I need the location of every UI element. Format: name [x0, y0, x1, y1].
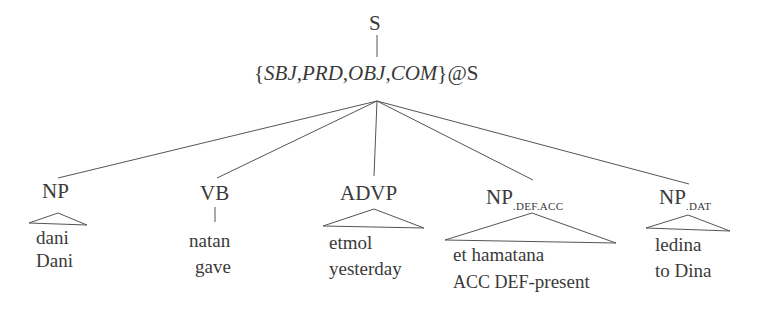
- set-open-brace: {: [254, 61, 264, 85]
- node-np: NP: [42, 180, 69, 202]
- word-etmol: etmol: [329, 232, 372, 254]
- node-np-def-acc: NP.DEF.ACC: [486, 186, 563, 217]
- node-np-def-acc-label: NP: [486, 185, 513, 209]
- edge-advp: [374, 101, 377, 176]
- triangle-np: [29, 213, 87, 225]
- at-s-suffix: @S: [447, 61, 478, 85]
- gloss-acc-def-present: ACC DEF-present: [453, 271, 590, 293]
- gloss-dani: Dani: [36, 250, 73, 272]
- node-advp: ADVP: [340, 182, 397, 204]
- word-et-hamatana: et hamatana: [453, 244, 544, 266]
- edge-np-def-acc: [377, 101, 533, 180]
- triangle-np-dat: [646, 215, 730, 231]
- word-natan: natan: [189, 230, 230, 252]
- root-node-s: S: [369, 12, 381, 34]
- syntax-tree-diagram: S {SBJ,PRD,OBJ,COM}@S NP dani Dani VB na…: [0, 0, 761, 314]
- edge-vb: [217, 101, 377, 178]
- set-close-brace: }: [437, 61, 447, 85]
- word-dani: dani: [36, 227, 69, 249]
- gloss-to-dina: to Dina: [655, 260, 711, 282]
- node-vb: VB: [200, 182, 229, 204]
- node-np-def-acc-subscript: .DEF.ACC: [513, 200, 563, 212]
- node-np-dat-label: NP: [659, 185, 686, 209]
- gloss-yesterday: yesterday: [329, 258, 402, 280]
- intermediate-node: {SBJ,PRD,OBJ,COM}@S: [254, 62, 478, 84]
- edge-np-dat: [377, 101, 689, 184]
- node-np-dat-subscript: .DAT: [686, 200, 711, 212]
- gloss-gave: gave: [195, 256, 231, 278]
- triangle-np-def-acc: [445, 213, 616, 243]
- edge-np: [58, 101, 377, 178]
- gloss-smallcaps: ACC DEF: [453, 272, 529, 292]
- gloss-rest: -present: [529, 271, 590, 292]
- feature-list: SBJ,PRD,OBJ,COM: [264, 61, 437, 85]
- node-np-dat: NP.DAT: [659, 186, 711, 217]
- triangle-advp: [323, 209, 424, 228]
- word-ledina: ledina: [655, 234, 701, 256]
